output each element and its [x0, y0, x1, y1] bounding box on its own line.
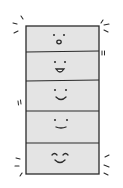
stacked-boxes-illustration [0, 0, 123, 188]
motion-marks-right [102, 51, 105, 55]
box-stack-outline [26, 26, 99, 174]
sparkle-marks-bottom-left [15, 158, 22, 176]
sparkle-marks-top-left [13, 16, 23, 33]
motion-marks-left [18, 100, 21, 105]
box-stack [26, 26, 99, 174]
sparkle-marks-bottom-right [104, 155, 109, 175]
sparkle-marks-top-right [101, 20, 109, 32]
